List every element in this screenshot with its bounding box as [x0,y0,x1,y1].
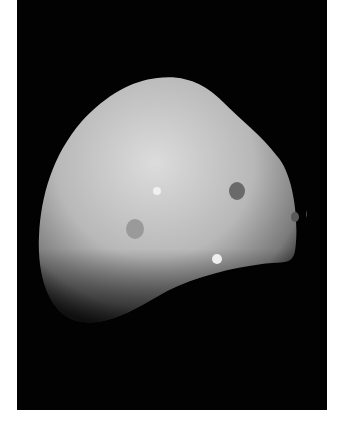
crater [229,182,245,200]
moon-photo [17,0,327,410]
moon-body [37,76,307,328]
